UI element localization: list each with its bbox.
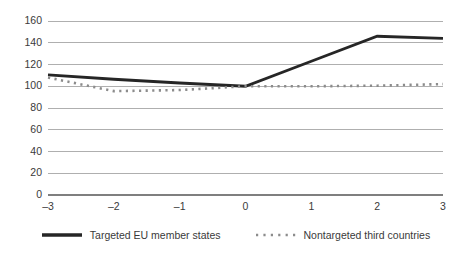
series-line-targeted xyxy=(48,36,443,86)
y-tick-label: 20 xyxy=(6,167,42,178)
legend-label-nontargeted: Nontargeted third countries xyxy=(304,229,431,241)
x-tick-label: –1 xyxy=(160,201,200,212)
y-tick-label: 80 xyxy=(6,102,42,113)
x-tick-label: 0 xyxy=(226,201,266,212)
chart-legend: Targeted EU member states Nontargeted th… xyxy=(0,224,471,246)
x-tick-label: –2 xyxy=(94,201,134,212)
y-tick-label: 140 xyxy=(6,37,42,48)
line-chart: 020406080100120140160 –3–2–10123 Targete… xyxy=(0,0,471,254)
chart-plot-area xyxy=(0,0,471,254)
gridlines xyxy=(48,21,443,195)
y-tick-label: 60 xyxy=(6,124,42,135)
y-tick-label: 100 xyxy=(6,80,42,91)
y-tick-label: 40 xyxy=(6,146,42,157)
y-tick-label: 160 xyxy=(6,15,42,26)
y-tick-label: 120 xyxy=(6,59,42,70)
dotted-line-swatch-icon xyxy=(255,230,297,240)
solid-line-swatch-icon xyxy=(41,230,83,240)
x-tick-label: –3 xyxy=(28,201,68,212)
x-tick-label: 2 xyxy=(357,201,397,212)
y-tick-label: 0 xyxy=(6,189,42,200)
legend-item-targeted: Targeted EU member states xyxy=(41,229,221,241)
legend-label-targeted: Targeted EU member states xyxy=(90,229,221,241)
x-tick-label: 3 xyxy=(423,201,463,212)
series-layer xyxy=(48,36,443,91)
x-tick-label: 1 xyxy=(291,201,331,212)
legend-item-nontargeted: Nontargeted third countries xyxy=(255,229,431,241)
